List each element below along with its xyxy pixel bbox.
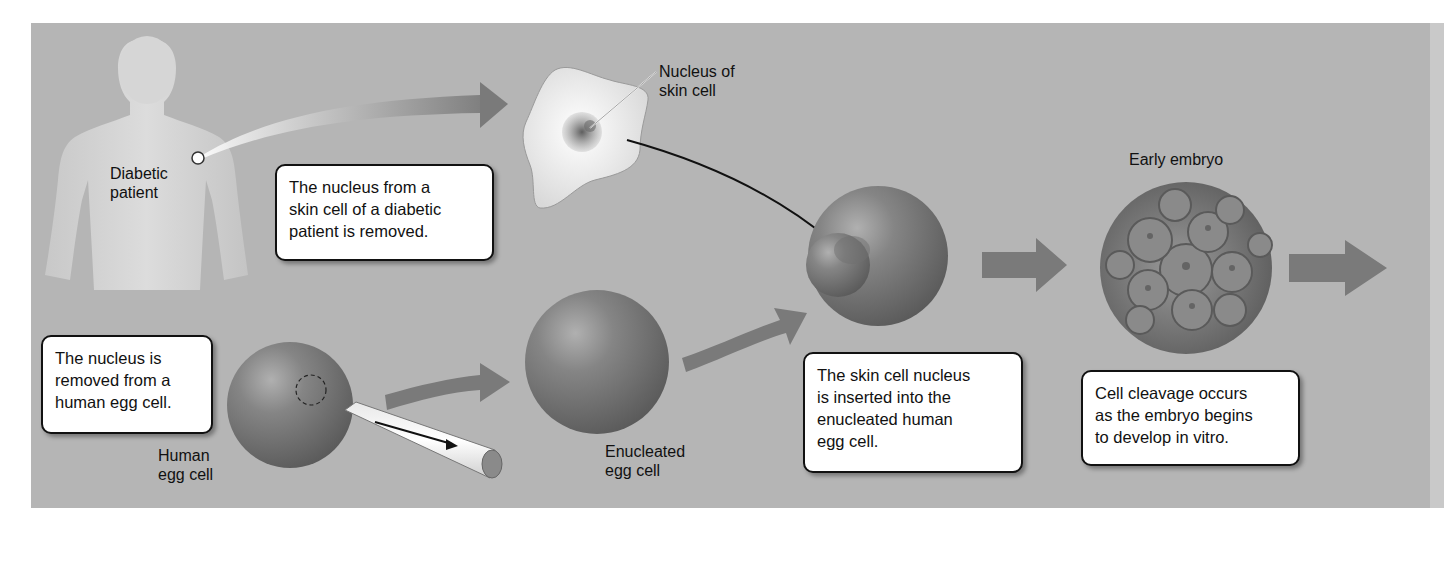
human-egg-cell [227, 342, 353, 468]
enucleated-egg-cell [525, 290, 669, 434]
label-human-egg-cell: Human egg cell [158, 446, 213, 484]
label-nucleus-of-skin-cell: Nucleus of skin cell [659, 62, 735, 100]
caption-step-1: The nucleus from a skin cell of a diabet… [275, 164, 494, 261]
cloning-diagram: Diabetic patient Nucleus of skin cell Ea… [0, 0, 1444, 563]
caption-step-2: The nucleus is removed from a human egg … [41, 335, 213, 434]
biopsy-site-marker [192, 152, 204, 164]
caption-step-3: The skin cell nucleus is inserted into t… [803, 352, 1023, 473]
early-embryo [1100, 182, 1272, 354]
caption-step-4: Cell cleavage occurs as the embryo begin… [1081, 370, 1300, 466]
label-enucleated-egg-cell: Enucleated egg cell [605, 442, 685, 480]
label-diabetic-patient: Diabetic patient [110, 164, 168, 202]
label-early-embryo: Early embryo [1129, 150, 1223, 169]
